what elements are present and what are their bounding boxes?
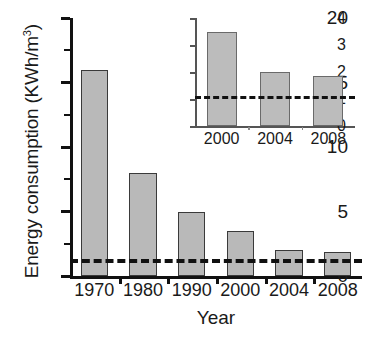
bar <box>207 32 237 127</box>
y-axis-title-exponent: 3 <box>21 30 33 36</box>
threshold-line <box>195 96 355 99</box>
y-axis-tick <box>61 17 70 20</box>
y-axis-tick <box>190 18 195 20</box>
x-axis-tick-label: 2004 <box>257 130 293 148</box>
energy-consumption-bar-chart: Energy consumption (KWh/m3) 05101520 197… <box>0 0 373 338</box>
y-axis-title: Energy consumption (KWh/m3) <box>21 6 43 296</box>
threshold-line <box>70 259 362 263</box>
y-axis-tick <box>61 146 70 149</box>
y-axis-minor-tick <box>64 49 70 51</box>
y-axis-tick <box>190 99 195 101</box>
bar <box>313 76 343 126</box>
y-axis-tick <box>190 72 195 74</box>
y-axis-tick <box>61 81 70 84</box>
y-axis-tick <box>190 45 195 47</box>
bar <box>178 212 205 277</box>
inset-x-axis-tick-labels: 200020042008 <box>195 130 355 152</box>
inset-plot-area: 01234 <box>195 18 355 126</box>
x-axis-tick-label: 2004 <box>269 280 309 301</box>
y-axis-title-text: Energy consumption (KWh/m <box>21 36 42 278</box>
y-axis-title-suffix: ) <box>21 24 42 30</box>
y-axis-minor-tick <box>64 114 70 116</box>
x-axis-tick-label: 2000 <box>204 130 240 148</box>
y-axis-tick-label: 3 <box>337 36 346 54</box>
x-axis-title: Year <box>70 307 362 329</box>
y-axis-tick <box>61 275 70 278</box>
x-axis-tick-label: 2008 <box>318 280 358 301</box>
y-axis-minor-tick <box>64 243 70 245</box>
x-axis-tick-label: 2008 <box>311 130 347 148</box>
y-axis-tick <box>190 126 195 128</box>
y-axis-tick-label: 4 <box>337 9 346 27</box>
y-axis-minor-tick <box>64 178 70 180</box>
inset-y-axis-line <box>195 18 197 126</box>
bar <box>324 252 351 276</box>
inset-x-axis-line <box>195 126 355 128</box>
y-axis-tick-label: 5 <box>337 201 348 223</box>
bar <box>81 70 108 276</box>
x-axis-tick-label: 1980 <box>123 280 163 301</box>
bar <box>260 72 290 126</box>
x-axis-tick-label: 1990 <box>172 280 212 301</box>
x-axis-tick-labels: 197019801990200020042008 <box>70 280 362 304</box>
x-axis-tick-label: 1970 <box>74 280 114 301</box>
inset-chart: 01234 200020042008 <box>157 10 363 160</box>
y-axis-tick <box>61 210 70 213</box>
y-axis-line <box>70 18 73 276</box>
bar <box>227 231 254 276</box>
x-axis-tick-label: 2000 <box>220 280 260 301</box>
